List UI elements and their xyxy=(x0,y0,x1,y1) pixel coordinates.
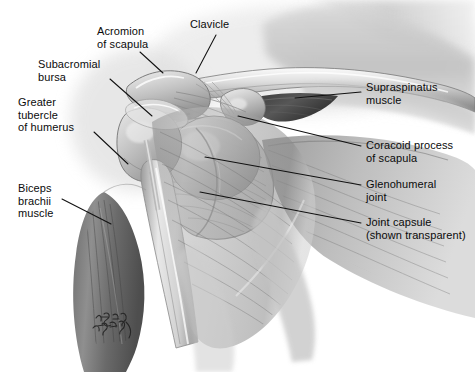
leader-line-greater-tubercle-of-humerus xyxy=(94,132,128,164)
leader-line-glenohumeral-joint xyxy=(205,157,361,185)
leader-line-subacromial-bursa xyxy=(110,79,152,116)
leader-line-clavicle xyxy=(196,35,216,73)
leader-line-joint-capsule xyxy=(200,192,361,223)
leader-line-biceps-brachii-muscle xyxy=(62,199,111,224)
leader-line-supraspinatus-muscle xyxy=(295,92,361,98)
leader-lines xyxy=(0,0,475,372)
leader-line-coracoid-process-of-scapula xyxy=(238,116,361,146)
shoulder-anatomy-figure: Acromionof scapulaClavicleSubacromialbur… xyxy=(0,0,475,372)
leader-line-acromion-of-scapula xyxy=(140,52,163,73)
